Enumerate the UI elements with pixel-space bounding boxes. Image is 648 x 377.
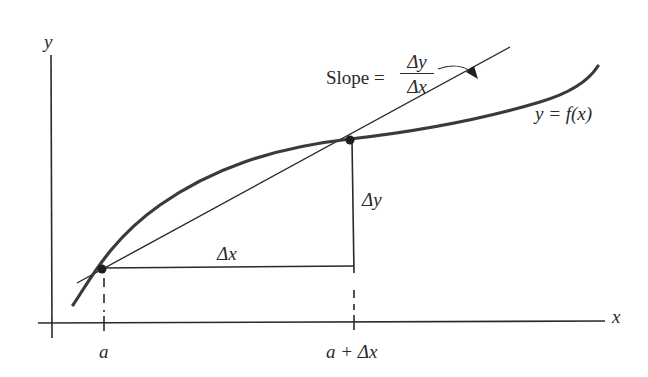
x-axis — [38, 321, 605, 323]
y-axis-label: y — [44, 32, 52, 51]
secant-line — [77, 47, 510, 283]
diagram-canvas — [0, 0, 648, 377]
fraction-bar — [400, 73, 434, 74]
delta-y-segment — [352, 140, 354, 273]
slope-fraction: Δy Δx — [400, 52, 434, 96]
curve-label: y = f(x) — [535, 104, 592, 123]
slope-denominator: Δx — [407, 77, 427, 96]
slope-numerator: Δy — [407, 52, 427, 71]
point-a — [98, 265, 107, 274]
delta-x-segment — [102, 266, 354, 268]
delta-x-label: Δx — [217, 244, 237, 263]
x-axis-label: x — [612, 307, 620, 326]
delta-y-label: Δy — [362, 190, 382, 209]
point-a-plus-dx — [346, 136, 355, 145]
secant-diagram: y x Slope = Δy Δx y = f(x) Δy Δx a a + Δ… — [0, 0, 648, 377]
slope-label-prefix: Slope = — [326, 68, 385, 87]
function-curve — [73, 66, 598, 305]
slope-arrow-head — [466, 66, 478, 79]
tick-label-a-plus-dx: a + Δx — [326, 342, 377, 361]
tick-label-a: a — [99, 342, 109, 361]
y-axis — [51, 55, 52, 338]
